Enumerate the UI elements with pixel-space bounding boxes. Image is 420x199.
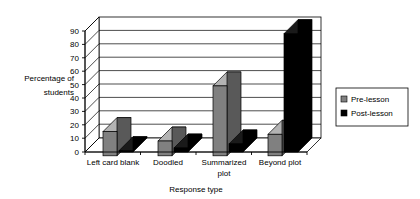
- bar-post-lesson-beyond-plot: [284, 20, 312, 152]
- y-tick-label: 20: [70, 121, 79, 130]
- legend-label-post-lesson: Post-lesson: [351, 109, 393, 118]
- legend-swatch-pre-lesson: [341, 96, 347, 102]
- y-tick-label: 0: [75, 148, 80, 157]
- chart-canvas: 90 80 70 60 50 40 30 20 10 0 Percentage …: [0, 0, 420, 199]
- y-axis-title-line: students: [44, 88, 74, 97]
- y-tick-label: 80: [70, 40, 79, 49]
- y-tick-label: 90: [70, 27, 79, 36]
- x-axis-title: Response type: [169, 185, 223, 194]
- legend: Pre-lesson Post-lesson: [336, 88, 408, 126]
- y-axis-title-line: Percentage of: [24, 74, 75, 83]
- x-tick-label: Left card blank: [87, 158, 140, 167]
- x-tick-label: Doodled: [153, 158, 183, 167]
- legend-swatch-post-lesson: [341, 110, 347, 116]
- legend-label-pre-lesson: Pre-lesson: [351, 95, 389, 104]
- legend-box: [336, 88, 408, 126]
- y-tick-label: 30: [70, 107, 79, 116]
- x-tick-label-line2: plot: [218, 169, 232, 178]
- x-tick-label: Beyond plot: [259, 158, 302, 167]
- y-tick-label: 10: [70, 134, 79, 143]
- x-tick-label: Summarized: [202, 158, 247, 167]
- bar-chart: 90 80 70 60 50 40 30 20 10 0 Percentage …: [0, 0, 420, 199]
- y-tick-label: 70: [70, 54, 79, 63]
